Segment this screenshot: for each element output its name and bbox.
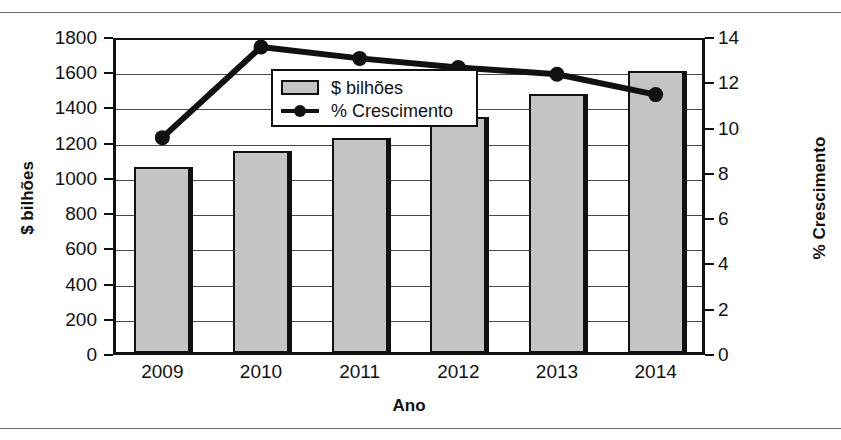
y-axis-left-tick-mark [104, 284, 113, 286]
data-point-2010 [254, 40, 269, 55]
chart-legend: $ bilhões % Crescimento [271, 69, 478, 127]
y-axis-left-tick-label: 800 [65, 204, 97, 223]
legend-label-bilhoes: $ bilhões [331, 79, 403, 97]
y-axis-left-tick-mark [104, 143, 113, 145]
y-axis-right-tick-mark [705, 173, 714, 175]
y-axis-right-tick-mark [705, 309, 714, 311]
x-axis-tick-label: 2012 [413, 362, 503, 381]
y-axis-right-tick-label: 14 [718, 28, 739, 47]
y-axis-left-tick-mark [104, 178, 113, 180]
x-axis-tick-label: 2009 [117, 362, 207, 381]
y-axis-right-tick-label: 2 [718, 300, 729, 319]
y-axis-right-tick-label: 4 [718, 254, 729, 273]
y-axis-left-tick-mark [104, 37, 113, 39]
x-axis-tick-label: 2011 [315, 362, 405, 381]
y-axis-left-tick-label: 1800 [55, 28, 97, 47]
data-point-2013 [550, 67, 565, 82]
page-rule-bottom [0, 428, 841, 429]
y-axis-right-tick-mark [705, 354, 714, 356]
y-axis-right-tick-mark [705, 128, 714, 130]
y-axis-left-tick-label: 0 [86, 345, 97, 364]
y-axis-right-tick-label: 10 [718, 119, 739, 138]
y-axis-left-tick-label: 1000 [55, 169, 97, 188]
y-axis-left-tick-label: 1600 [55, 63, 97, 82]
y-axis-right-tick-mark [705, 263, 714, 265]
x-axis-title: Ano [113, 396, 705, 416]
x-axis-tick-label: 2013 [512, 362, 602, 381]
legend-line-marker-icon [281, 103, 319, 118]
legend-label-crescimento: % Crescimento [331, 102, 453, 120]
y-axis-right-tick-mark [705, 218, 714, 220]
page-rule-top [0, 12, 841, 13]
y-axis-right-tick-mark [705, 82, 714, 84]
legend-item-crescimento: % Crescimento [281, 99, 468, 122]
y-axis-left-tick-mark [104, 213, 113, 215]
x-axis-tick-label: 2014 [611, 362, 701, 381]
y-axis-right-tick-mark [705, 37, 714, 39]
y-axis-right-tick-label: 0 [718, 345, 729, 364]
y-axis-right-tick-label: 6 [718, 209, 729, 228]
chart-title-clipped [0, 0, 841, 3]
y-axis-left-tick-mark [104, 354, 113, 356]
y-axis-right-tick-label: 12 [718, 73, 739, 92]
data-point-2011 [352, 51, 367, 66]
x-axis-tick-label: 2010 [216, 362, 306, 381]
data-point-2014 [648, 87, 663, 102]
y-axis-left-tick-label: 1400 [55, 98, 97, 117]
data-point-2009 [155, 130, 170, 145]
y-axis-left-tick-mark [104, 107, 113, 109]
y-axis-right-title: % Crescimento [810, 118, 830, 278]
legend-bar-swatch-icon [281, 80, 319, 95]
y-axis-left-tick-label: 1200 [55, 134, 97, 153]
y-axis-left-tick-mark [104, 72, 113, 74]
legend-item-bilhoes: $ bilhões [281, 76, 468, 99]
y-axis-left-tick-label: 600 [65, 239, 97, 258]
y-axis-left-tick-mark [104, 248, 113, 250]
y-axis-left-tick-mark [104, 319, 113, 321]
y-axis-left-tick-label: 400 [65, 275, 97, 294]
y-axis-left-tick-label: 200 [65, 310, 97, 329]
y-axis-right-tick-label: 8 [718, 164, 729, 183]
chart-figure: 020040060080010001200140016001800 024681… [0, 0, 841, 440]
y-axis-left-title: $ bilhões [18, 128, 38, 268]
